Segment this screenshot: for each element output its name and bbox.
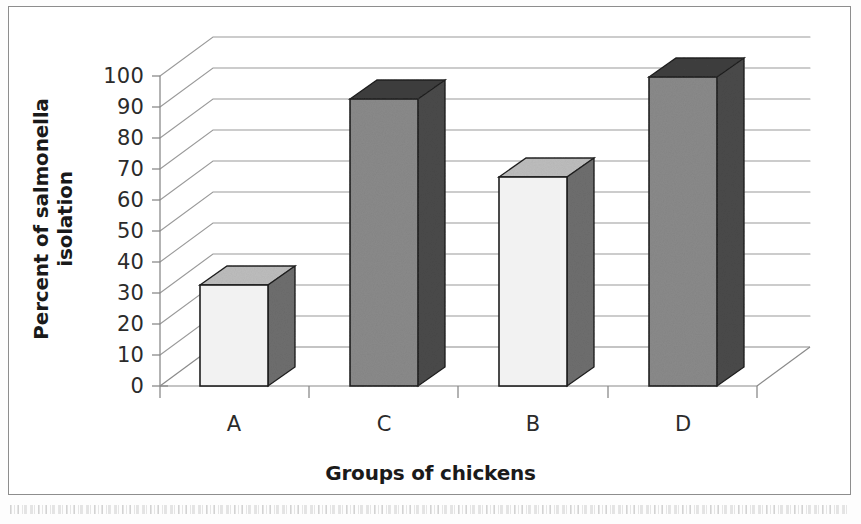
y-tick-label-10: 10 xyxy=(82,343,144,367)
x-tick-label-A: A xyxy=(199,412,269,436)
bar-D[interactable] xyxy=(649,58,744,386)
y-tick-label-0: 0 xyxy=(82,374,144,398)
bar-A[interactable] xyxy=(200,266,295,386)
x-tick-label-C: C xyxy=(349,412,419,436)
bar-B[interactable] xyxy=(499,158,594,386)
y-tick-label-100: 100 xyxy=(82,64,144,88)
y-tick-label-60: 60 xyxy=(82,188,144,212)
bar-C[interactable] xyxy=(350,80,445,386)
y-tick-label-20: 20 xyxy=(82,312,144,336)
x-tick-label-B: B xyxy=(498,412,568,436)
scan-artifact-band xyxy=(10,505,850,514)
y-tick-label-70: 70 xyxy=(82,157,144,181)
x-tick-label-D: D xyxy=(648,412,718,436)
y-axis-title: Percent of salmonella isolation xyxy=(29,74,77,364)
y-tick-label-80: 80 xyxy=(82,126,144,150)
y-axis xyxy=(152,76,168,386)
figure-canvas: 100 90 80 70 60 50 40 30 20 10 0 A C B D… xyxy=(0,0,861,524)
x-axis-title: Groups of chickens xyxy=(0,461,861,485)
y-tick-label-30: 30 xyxy=(82,281,144,305)
y-tick-label-40: 40 xyxy=(82,250,144,274)
x-axis-ticks xyxy=(160,386,757,398)
y-tick-label-50: 50 xyxy=(82,219,144,243)
y-tick-label-90: 90 xyxy=(82,95,144,119)
